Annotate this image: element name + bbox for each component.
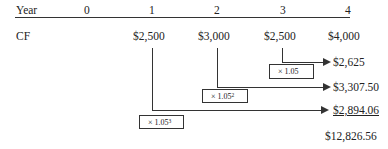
cf-year-1: $2,500 <box>133 30 165 43</box>
year-3: 3 <box>280 4 286 17</box>
year-0: 0 <box>84 4 90 17</box>
cf-year-4: $4,000 <box>328 30 360 43</box>
arrow-right-icon <box>323 58 331 66</box>
year-2: 2 <box>214 4 220 17</box>
factor-box-3: × 1.053 <box>139 115 184 129</box>
year-1: 1 <box>149 4 155 17</box>
year-label: Year <box>16 4 37 17</box>
connector-year-2 <box>217 48 218 87</box>
connector-year-1 <box>152 48 153 110</box>
arrow-right-icon <box>321 106 329 114</box>
cf-year-3: $2,500 <box>264 30 296 43</box>
factor-box-1: × 1.05 <box>269 64 314 79</box>
connector-year-3 <box>282 48 283 63</box>
fv-year-3: $2,625 <box>333 56 365 69</box>
fv-year-1: $2,894.06 <box>333 104 379 117</box>
cf-year-2: $3,000 <box>198 30 230 43</box>
arrow-right-icon <box>323 83 331 91</box>
year-4: 4 <box>345 4 351 17</box>
factor-box-2: × 1.052 <box>202 89 248 103</box>
total-future-value: $12,826.56 <box>325 130 377 143</box>
cf-label: CF <box>16 30 30 43</box>
fv-year-2: $3,307.50 <box>333 81 379 94</box>
timeline-axis <box>15 17 350 18</box>
